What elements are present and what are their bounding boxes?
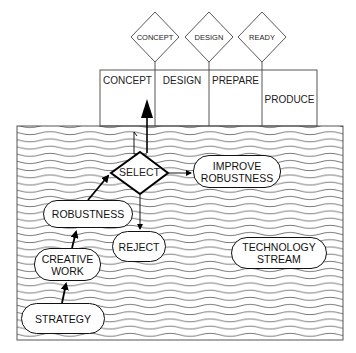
gate-label-design: DESIGN <box>185 32 233 43</box>
technology-stream-node: TECHNOLOGY STREAM <box>231 237 327 269</box>
creative-label-line2: WORK <box>51 265 84 277</box>
improve-robustness-node: IMPROVE ROBUSTNESS <box>193 155 281 188</box>
creative-work-node: CREATIVE WORK <box>34 248 101 281</box>
improve-label-line2: ROBUSTNESS <box>201 172 273 184</box>
gate-label-ready: READY <box>238 32 286 43</box>
stream-label-line1: TECHNOLOGY <box>242 241 316 253</box>
improve-label-line1: IMPROVE <box>213 160 261 172</box>
phase-label-concept: CONCEPT <box>100 75 155 86</box>
phase-label-produce: PRODUCE <box>262 94 317 105</box>
gate-label-concept: CONCEPT <box>131 32 179 43</box>
phase-label-prepare: PREPARE <box>209 75 262 86</box>
stream-label-line2: STREAM <box>257 253 301 265</box>
strategy-label: STRATEGY <box>35 313 91 325</box>
reject-label: REJECT <box>119 241 160 253</box>
reject-node: REJECT <box>112 231 166 262</box>
select-label: SELECT <box>111 167 168 178</box>
phase-label-design: DESIGN <box>155 75 209 86</box>
diagram-canvas <box>0 0 356 353</box>
creative-label-line1: CREATIVE <box>42 253 94 265</box>
robustness-label: ROBUSTNESS <box>52 208 124 220</box>
strategy-node: STRATEGY <box>21 303 105 334</box>
robustness-node: ROBUSTNESS <box>43 200 133 228</box>
